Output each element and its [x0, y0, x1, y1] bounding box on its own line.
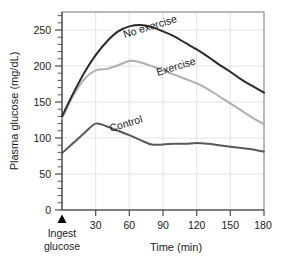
y-axis-title: Plasma glucose (mg/dL): [8, 52, 20, 171]
ingest-glucose-label-line1: Ingest: [48, 227, 77, 239]
y-tick-label-0: 0: [45, 204, 51, 216]
chart-page: 0 50 100 150 200 250 30 60 90 120 150 18…: [0, 0, 285, 260]
x-axis-title: Time (min): [150, 241, 202, 253]
x-axis-major-ticks: [96, 210, 264, 216]
y-axis-major-ticks: [55, 30, 62, 210]
x-tick-label-90: 90: [157, 219, 169, 231]
y-tick-label-100: 100: [33, 132, 51, 144]
glucose-tolerance-line-chart: 0 50 100 150 200 250 30 60 90 120 150 18…: [0, 0, 285, 260]
x-tick-label-150: 150: [222, 219, 240, 231]
y-tick-label-250: 250: [33, 24, 51, 36]
y-tick-label-200: 200: [33, 60, 51, 72]
x-tick-label-30: 30: [90, 219, 102, 231]
y-tick-label-150: 150: [33, 96, 51, 108]
y-axis-minor-ticks: [58, 16, 63, 203]
ingest-glucose-triangle-icon: [58, 215, 67, 224]
y-tick-label-50: 50: [39, 168, 51, 180]
x-tick-label-120: 120: [188, 219, 206, 231]
ingest-glucose-label-line2: glucose: [44, 240, 80, 252]
x-tick-label-60: 60: [123, 219, 135, 231]
x-tick-label-180: 180: [254, 219, 272, 231]
